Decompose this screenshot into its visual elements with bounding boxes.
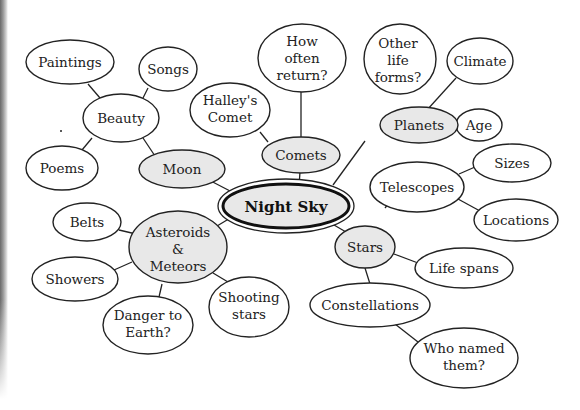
- svg-text:Songs: Songs: [147, 61, 189, 77]
- svg-text:Comet: Comet: [208, 109, 253, 125]
- svg-text:stars: stars: [232, 306, 266, 322]
- node-beauty: Beauty: [83, 94, 159, 142]
- svg-text:Locations: Locations: [483, 212, 549, 228]
- node-constellations: Constellations: [310, 283, 430, 327]
- node-life-spans: Life spans: [415, 248, 513, 288]
- svg-text:How: How: [286, 33, 318, 49]
- node-how-often-return: How often return?: [258, 24, 346, 92]
- svg-text:Other: Other: [378, 35, 418, 51]
- svg-text:Planets: Planets: [394, 117, 445, 133]
- node-belts: Belts: [53, 203, 121, 241]
- svg-text:often: often: [284, 50, 320, 66]
- node-planets: Planets: [380, 107, 458, 143]
- node-songs: Songs: [139, 47, 197, 91]
- svg-text:return?: return?: [277, 67, 328, 83]
- svg-text:Danger to: Danger to: [114, 307, 183, 323]
- svg-text:Showers: Showers: [46, 271, 105, 287]
- node-telescopes: Telescopes: [370, 162, 464, 212]
- svg-text:&: &: [172, 241, 184, 257]
- svg-text:Poems: Poems: [40, 160, 84, 176]
- node-showers: Showers: [32, 257, 118, 301]
- node-paintings: Paintings: [26, 40, 114, 84]
- svg-text:Age: Age: [465, 117, 492, 133]
- svg-text:Life spans: Life spans: [429, 260, 499, 276]
- node-sizes: Sizes: [473, 144, 551, 182]
- node-danger-to-earth: Danger to Earth?: [103, 296, 193, 354]
- svg-text:Stars: Stars: [347, 239, 383, 255]
- svg-text:Night Sky: Night Sky: [245, 198, 329, 216]
- svg-text:Comets: Comets: [275, 147, 327, 163]
- svg-text:them?: them?: [443, 357, 485, 373]
- node-moon: Moon: [139, 150, 225, 188]
- svg-text:Sizes: Sizes: [494, 155, 530, 171]
- node-stars: Stars: [335, 226, 395, 268]
- svg-text:Belts: Belts: [70, 214, 105, 230]
- node-other-life-forms: Other life forms?: [364, 24, 436, 94]
- node-halleys-comet: Halley's Comet: [190, 83, 270, 137]
- svg-text:Who named: Who named: [423, 340, 505, 356]
- node-comets: Comets: [262, 137, 340, 173]
- svg-text:forms?: forms?: [375, 69, 422, 85]
- node-poems: Poems: [26, 146, 98, 190]
- svg-text:Meteors: Meteors: [150, 258, 207, 274]
- svg-text:Halley's: Halley's: [203, 92, 258, 108]
- node-climate: Climate: [447, 38, 513, 84]
- node-locations: Locations: [474, 199, 558, 241]
- node-shooting-stars: Shooting stars: [209, 277, 289, 337]
- svg-text:Telescopes: Telescopes: [380, 179, 455, 195]
- node-who-named-them: Who named them?: [410, 328, 518, 388]
- svg-text:Beauty: Beauty: [97, 110, 145, 126]
- svg-text:Moon: Moon: [163, 161, 202, 177]
- svg-text:Asteroids: Asteroids: [145, 224, 211, 240]
- node-age: Age: [456, 109, 502, 141]
- node-asteroids-meteors: Asteroids & Meteors: [129, 211, 227, 283]
- svg-text:Earth?: Earth?: [125, 324, 171, 340]
- concept-map: Paintings Songs Poems Halley's Comet How…: [0, 0, 580, 410]
- svg-text:Shooting: Shooting: [218, 289, 280, 305]
- svg-text:Climate: Climate: [453, 53, 506, 69]
- node-night-sky: Night Sky: [218, 179, 354, 233]
- svg-text:life: life: [387, 52, 409, 68]
- svg-text:Constellations: Constellations: [321, 297, 419, 313]
- svg-text:Paintings: Paintings: [38, 54, 102, 70]
